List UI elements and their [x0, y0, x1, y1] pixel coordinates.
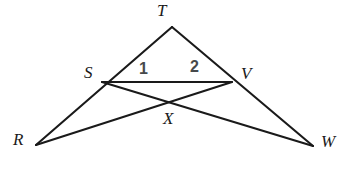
segment-TW: [172, 27, 313, 146]
vertex-label-X: X: [163, 110, 173, 127]
vertex-label-V: V: [241, 65, 251, 82]
angle-label-2: 2: [190, 59, 199, 75]
figure-canvas: [0, 0, 352, 173]
segment-RT: [36, 27, 172, 145]
vertex-label-W: W: [321, 133, 335, 150]
vertex-label-S: S: [84, 64, 93, 81]
geometry-diagram: T S V R W X 1 2: [0, 0, 352, 173]
angle-label-1: 1: [139, 61, 148, 77]
vertex-label-T: T: [157, 2, 166, 19]
vertex-label-R: R: [13, 131, 23, 148]
